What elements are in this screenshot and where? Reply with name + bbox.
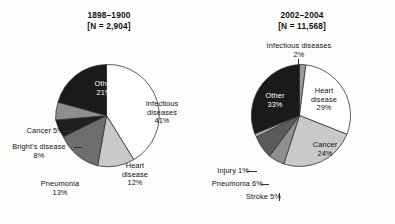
chart-title-left-period: 1898–1900 [88, 10, 131, 20]
chart-title-left: 1898–1900 [N = 2,904] [10, 10, 208, 32]
slice-label-left-pneumonia: Pneumonia 13% [30, 180, 90, 197]
leader-line-right-pneumonia [261, 184, 269, 185]
slice-label-right-heart-disease-pct: 29% [316, 103, 331, 112]
slice-label-left-brights-disease: Bright's disease 8% [0, 143, 78, 160]
slice-label-left-brights-disease-pct: 8% [34, 151, 45, 160]
slice-label-right-injury-text: Injury 1% [217, 166, 249, 175]
slice-label-right-cancer: Cancer 24% [305, 141, 345, 158]
slice-label-right-cancer-pct: 24% [317, 149, 332, 158]
chart-title-right: 2002–2004 [N = 11,568] [203, 10, 395, 32]
slice-label-right-other: Other 33% [257, 92, 293, 109]
chart-title-right-period: 2002–2004 [281, 10, 324, 20]
chart-title-left-n: [N = 2,904] [10, 21, 208, 32]
leader-line-left-cancer [62, 131, 72, 132]
slice-label-left-cancer-text: Cancer 5% [27, 126, 64, 135]
slice-label-left-pneumonia-pct: 13% [52, 188, 67, 197]
chart-panel-1898-1900: 1898–1900 [N = 2,904] Other [0, 0, 198, 224]
slice-label-left-infectious-diseases: Infectious diseases 41% [136, 100, 188, 126]
slice-label-right-other-pct: 33% [267, 100, 282, 109]
slice-label-right-infectious-diseases-pct: 2% [294, 50, 305, 59]
slice-label-right-injury: Injury 1% [197, 167, 249, 176]
figure-root: 1898–1900 [N = 2,904] Other [0, 0, 395, 224]
slice-label-left-infectious-diseases-pct: 41% [154, 116, 169, 125]
slice-label-right-stroke-text: Stroke 5% [246, 192, 281, 201]
slice-label-left-other: Other 21% [85, 80, 123, 97]
slice-label-left-other-pct: 21% [96, 88, 111, 97]
slice-label-left-heart-disease: Heart disease 12% [114, 162, 156, 188]
leader-line-left-brights-disease [74, 147, 82, 148]
slice-label-right-pneumonia-text: Pneumonia 6% [212, 179, 263, 188]
slice-label-right-pneumonia: Pneumonia 6% [197, 180, 263, 189]
slice-label-left-heart-disease-pct: 12% [127, 178, 142, 187]
leader-line-right-stroke [279, 193, 280, 201]
slice-label-right-stroke: Stroke 5% [197, 193, 281, 202]
slice-label-left-cancer: Cancer 5% [0, 127, 64, 136]
slice-label-right-heart-disease: Heart disease 29% [303, 87, 345, 113]
leader-line-right-infectious-diseases [298, 59, 299, 66]
chart-panel-2002-2004: 2002–2004 [N = 11,568] [197, 0, 395, 224]
slice-label-right-infectious-diseases: Infectious diseases 2% [240, 42, 358, 59]
chart-title-right-n: [N = 11,568] [203, 21, 395, 32]
leader-line-right-injury [247, 171, 257, 172]
